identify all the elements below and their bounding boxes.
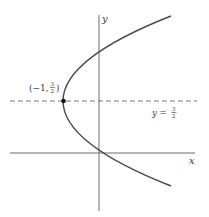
vertex-label-suffix: ) [56, 83, 60, 93]
x-axis-label: x [189, 155, 195, 166]
parabola-diagram: y x (−1, 3 2 ) y = 3 2 [0, 0, 209, 217]
symmetry-label-prefix: y = [151, 108, 167, 118]
vertex-label-frac-num: 3 [51, 81, 55, 87]
vertex-point [61, 99, 66, 104]
vertex-label-frac-den: 2 [51, 88, 55, 94]
vertex-label-prefix: (−1, [29, 83, 49, 93]
symmetry-label-frac-num: 3 [172, 106, 176, 112]
symmetry-label-frac-den: 2 [172, 113, 176, 119]
y-axis-label: y [101, 13, 108, 24]
